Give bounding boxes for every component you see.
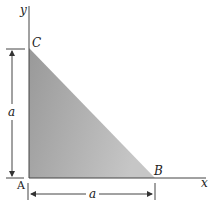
dim-vertical-label: a: [8, 105, 15, 119]
triangle-diagram: y x C B A a a: [0, 0, 212, 207]
vertex-a-label: A: [16, 179, 26, 192]
triangle-area: [29, 48, 155, 178]
dim-horizontal-label: a: [89, 187, 96, 201]
vertex-b-label: B: [153, 164, 163, 178]
y-axis-label: y: [19, 3, 27, 17]
vertex-c-label: C: [32, 36, 41, 50]
x-axis-label: x: [201, 176, 208, 190]
